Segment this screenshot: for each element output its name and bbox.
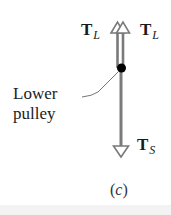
tension-symbol: T [137,135,148,154]
tension-subscript: S [149,143,155,157]
bottom-band [0,205,171,215]
tension-subscript: L [93,28,100,42]
callout-leader-line [82,71,119,97]
tension-subscript: L [152,28,159,42]
free-body-diagram: TL TL TS Lower pulley (c) [0,0,171,215]
caption-paren-close: ) [122,181,127,198]
tension-label-right: TL [140,21,159,38]
pulley-callout-line1: Lower [13,84,57,104]
arrow-down-icon [114,146,129,157]
figure-caption: (c) [110,182,128,198]
tension-label-left: TL [81,21,100,38]
pulley-callout-label: Lower pulley [13,84,57,124]
tension-label-lower: TS [137,136,155,153]
tension-symbol: T [81,20,92,39]
pulley-callout-line2: pulley [13,104,57,124]
tension-symbol: T [140,20,151,39]
